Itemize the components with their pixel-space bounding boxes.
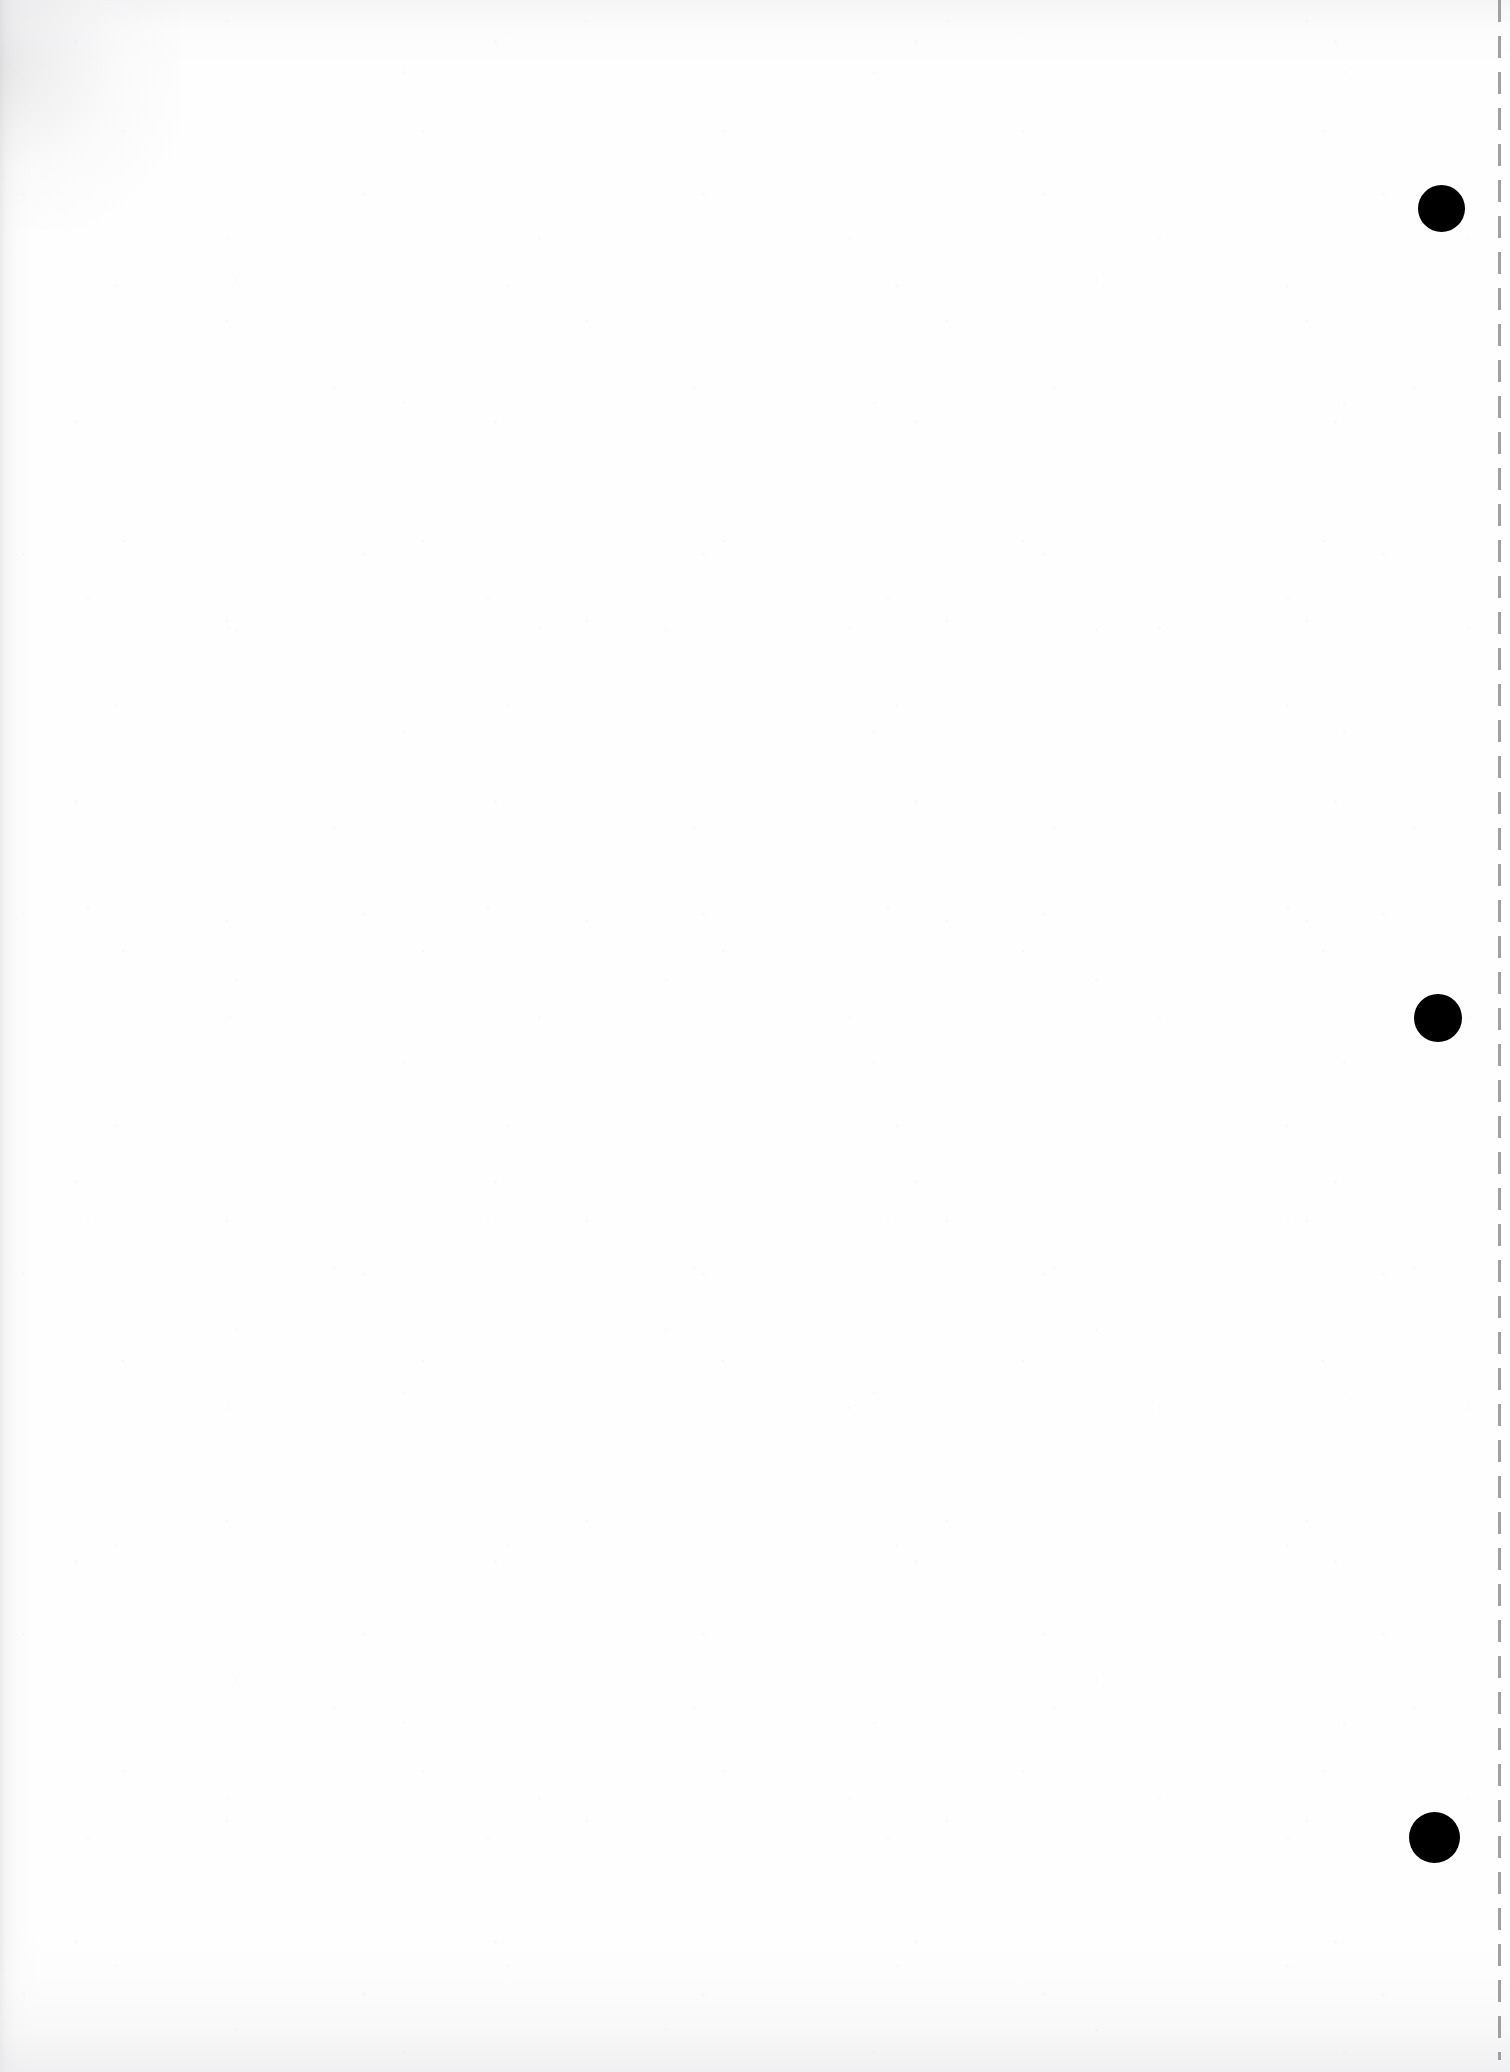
- registration-dot-top: [1418, 185, 1465, 232]
- scan-speckle-noise: [0, 0, 1510, 2072]
- scanned-page: Blank scanned document page with three b…: [0, 0, 1510, 2072]
- registration-dot-middle: [1414, 994, 1462, 1042]
- right-edge-dashed-rule: [1498, 0, 1501, 2060]
- registration-dot-bottom: [1409, 1812, 1460, 1863]
